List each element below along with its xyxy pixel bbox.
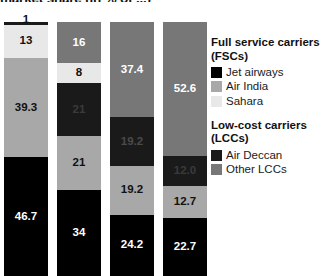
bar-segment: 34 <box>57 190 101 276</box>
legend-item-label: Jet airways <box>226 66 284 79</box>
stacked-bar: 168212134 <box>57 22 101 276</box>
legend-item[interactable]: Sahara <box>211 95 325 108</box>
segment-value-label: 21 <box>73 157 86 169</box>
bar-segment: 21 <box>57 136 101 189</box>
segment-value-label: 1 <box>4 13 48 25</box>
legend-group-heading: Low-cost carriers (LCCs) <box>211 119 325 146</box>
bar-segment: 19.2 <box>110 117 154 166</box>
stacked-bar: 37.419.219.224.2 <box>110 22 154 276</box>
segment-value-label: 39.3 <box>15 102 37 114</box>
legend-item-label: Air Deccan <box>226 149 282 162</box>
bar-segment: 12.0 <box>163 156 207 186</box>
legend-item[interactable]: Jet airways <box>211 66 325 79</box>
segment-value-label: 37.4 <box>121 64 143 76</box>
segment-value-label: 19.2 <box>121 136 143 148</box>
bar-segment: 52.6 <box>163 22 207 156</box>
legend-item-label: Sahara <box>226 95 263 108</box>
legend-group-spacer <box>211 110 325 119</box>
segment-value-label: 24.2 <box>121 239 143 251</box>
legend-item[interactable]: Air Deccan <box>211 149 325 162</box>
bar-segment: 37.4 <box>110 22 154 117</box>
legend-group: Low-cost carriers (LCCs)Air DeccanOther … <box>211 119 325 177</box>
legend-color-swatch-icon <box>211 67 222 78</box>
bar-segment: 13 <box>4 25 48 58</box>
segment-value-label: 12.7 <box>174 196 196 208</box>
legend-group-heading: Full service carriers (FSCs) <box>211 36 325 63</box>
legend-item-label: Air India <box>226 80 268 93</box>
segment-value-label: 12.0 <box>174 165 196 177</box>
bar-segment: 39.3 <box>4 58 48 158</box>
segment-value-label: 34 <box>73 227 86 239</box>
bar-segment: 12.7 <box>163 186 207 218</box>
stacked-bar: 52.612.012.722.7 <box>163 22 207 276</box>
chart-legend: Full service carriers (FSCs)Jet airwaysA… <box>211 36 325 178</box>
bar-segment: 24.2 <box>110 215 154 276</box>
bar-segment: 19.2 <box>110 166 154 215</box>
bar-segment: 46.7 <box>4 157 48 276</box>
segment-value-label: 22.7 <box>174 241 196 253</box>
segment-value-label: 19.2 <box>121 184 143 196</box>
segment-value-label: 8 <box>76 67 82 79</box>
chart-figure: market share (in % of ...) 1339.346.7116… <box>0 0 325 276</box>
stacked-bar: 1339.346.7 <box>4 22 48 276</box>
bar-segment: 8 <box>57 63 101 83</box>
legend-item[interactable]: Air India <box>211 80 325 93</box>
legend-color-swatch-icon <box>211 96 222 107</box>
legend-item-label: Other LCCs <box>226 163 287 176</box>
legend-color-swatch-icon <box>211 150 222 161</box>
chart-title: market share (in % of ...) <box>0 0 205 2</box>
bar-segment: 22.7 <box>163 218 207 276</box>
segment-value-label: 16 <box>73 37 86 49</box>
segment-value-label: 52.6 <box>174 83 196 95</box>
bar-segment: 16 <box>57 22 101 63</box>
legend-color-swatch-icon <box>211 164 222 175</box>
legend-group: Full service carriers (FSCs)Jet airwaysA… <box>211 36 325 108</box>
legend-color-swatch-icon <box>211 81 222 92</box>
segment-value-label: 13 <box>20 35 33 47</box>
bar-segment: 21 <box>57 83 101 136</box>
plot-area: 1339.346.7116821213437.419.219.224.252.6… <box>0 13 205 276</box>
legend-item[interactable]: Other LCCs <box>211 163 325 176</box>
segment-value-label: 21 <box>73 104 86 116</box>
segment-value-label: 46.7 <box>15 211 37 223</box>
